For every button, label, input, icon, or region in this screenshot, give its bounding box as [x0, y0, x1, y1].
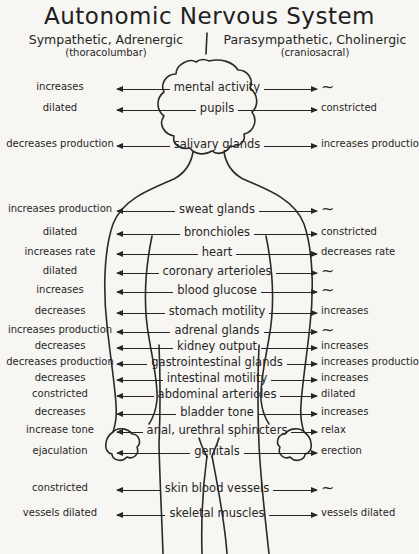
- parasympathetic-effect-label: vessels dilated: [318, 507, 415, 518]
- left-arrow: [116, 245, 199, 258]
- organ-label: anal, urethral sphincters: [144, 423, 291, 437]
- left-arrow: [116, 283, 174, 296]
- effect-row: dilatedbronchiolesconstricted: [4, 224, 415, 239]
- effect-row: increases productionadrenal glands~: [4, 322, 415, 337]
- left-arrow: [116, 323, 171, 336]
- left-arrow: [116, 444, 191, 457]
- parasympathetic-effect-label: increases production: [318, 356, 415, 367]
- right-arrow: [258, 202, 318, 215]
- left-arrow: [116, 80, 171, 93]
- organ-label: salivary glands: [171, 137, 264, 151]
- sympathetic-effect-label: increases production: [4, 324, 116, 335]
- organ-label: gastrointestinal glands: [148, 355, 285, 369]
- right-arrow: [290, 423, 318, 436]
- parasympathetic-effect-label: ~: [318, 483, 415, 493]
- sympathetic-effect-label: decreases: [4, 340, 116, 351]
- sympathetic-effect-label: vessels dilated: [4, 507, 116, 518]
- sympathetic-effect-label: increases rate: [4, 246, 116, 257]
- organ-label: blood glucose: [174, 283, 260, 297]
- left-arrow: [116, 371, 164, 384]
- parasympathetic-effect-label: increases: [318, 406, 415, 417]
- right-arrow: [243, 444, 318, 457]
- parasympathetic-effect-label: increases production: [318, 138, 415, 149]
- parasympathetic-effect-label: ~: [318, 82, 415, 92]
- right-arrow: [268, 506, 318, 519]
- effect-row: increases productionsweat glands~: [4, 201, 415, 216]
- right-arrow: [286, 355, 318, 368]
- ans-diagram: Autonomic Nervous System Sympathetic, Ad…: [0, 0, 419, 554]
- sympathetic-effect-label: ejaculation: [4, 445, 116, 456]
- parasympathetic-column-sublabel: (craniosacral): [213, 47, 417, 59]
- organ-label: genitals: [191, 444, 243, 458]
- left-arrow: [116, 405, 177, 418]
- sympathetic-effect-label: increase tone: [4, 424, 116, 435]
- parasympathetic-effect-label: constricted: [318, 102, 415, 113]
- left-arrow: [116, 304, 166, 317]
- sympathetic-effect-label: increases: [4, 284, 116, 295]
- right-arrow: [263, 137, 318, 150]
- sympathetic-effect-label: constricted: [4, 388, 116, 399]
- parasympathetic-effect-label: ~: [318, 325, 415, 335]
- sympathetic-effect-label: dilated: [4, 265, 116, 276]
- organ-label: stomach motility: [166, 304, 269, 318]
- effect-row: decreases productiongastrointestinal gla…: [4, 354, 415, 369]
- sympathetic-effect-label: decreases production: [4, 356, 116, 367]
- effect-row: increasesblood glucose~: [4, 282, 415, 297]
- left-arrow: [116, 264, 160, 277]
- left-arrow: [116, 101, 197, 114]
- effect-row: decreasesbladder toneincreases: [4, 404, 415, 419]
- sympathetic-effect-label: decreases: [4, 406, 116, 417]
- sympathetic-effect-label: increases: [4, 81, 116, 92]
- right-arrow: [275, 264, 319, 277]
- left-arrow: [116, 202, 176, 215]
- parasympathetic-effect-label: relax: [318, 424, 415, 435]
- left-arrow: [116, 355, 148, 368]
- parasympathetic-column-header: Parasympathetic, Cholinergic (craniosacr…: [213, 33, 417, 59]
- sympathetic-effect-label: decreases: [4, 305, 116, 316]
- parasympathetic-effect-label: constricted: [318, 226, 415, 237]
- page-title: Autonomic Nervous System: [0, 3, 419, 29]
- sympathetic-effect-label: increases production: [4, 203, 116, 214]
- organ-label: kidney output: [174, 339, 260, 353]
- organ-label: intestinal motility: [164, 371, 271, 385]
- right-arrow: [270, 371, 318, 384]
- sympathetic-column-header: Sympathetic, Adrenergic (thoracolumbar): [8, 33, 204, 59]
- effect-row: constrictedskin blood vessels~: [4, 480, 415, 495]
- organ-label: mental activity: [171, 80, 263, 94]
- organ-label: bladder tone: [177, 405, 257, 419]
- right-arrow: [253, 225, 318, 238]
- sympathetic-effect-label: constricted: [4, 482, 116, 493]
- organ-label: pupils: [197, 101, 237, 115]
- effect-row: ejaculationgenitalserection: [4, 443, 415, 458]
- right-arrow: [235, 245, 318, 258]
- effect-row: increasesmental activity~: [4, 79, 415, 94]
- organ-label: adrenal glands: [171, 323, 262, 337]
- sympathetic-effect-label: decreases production: [4, 138, 116, 149]
- right-arrow: [260, 339, 318, 352]
- right-arrow: [268, 304, 318, 317]
- parasympathetic-effect-label: ~: [318, 285, 415, 295]
- sympathetic-column-label: Sympathetic, Adrenergic: [8, 33, 204, 47]
- sympathetic-effect-label: dilated: [4, 226, 116, 237]
- left-arrow: [116, 225, 181, 238]
- organ-label: abdominal arterioles: [155, 387, 280, 401]
- left-arrow: [116, 339, 174, 352]
- parasympathetic-effect-label: increases: [318, 305, 415, 316]
- organ-label: coronary arterioles: [160, 264, 275, 278]
- sympathetic-column-sublabel: (thoracolumbar): [8, 47, 204, 59]
- effect-row: increase toneanal, urethral sphinctersre…: [4, 422, 415, 437]
- right-arrow: [263, 323, 318, 336]
- parasympathetic-effect-label: increases: [318, 340, 415, 351]
- parasympathetic-effect-label: decreases rate: [318, 246, 415, 257]
- effect-row: decreaseskidney outputincreases: [4, 338, 415, 353]
- parasympathetic-effect-label: ~: [318, 204, 415, 214]
- left-arrow: [116, 481, 162, 494]
- left-arrow: [116, 423, 144, 436]
- right-arrow: [279, 387, 318, 400]
- effect-row: decreasesstomach motilityincreases: [4, 303, 415, 318]
- effect-row: constrictedabdominal arteriolesdilated: [4, 386, 415, 401]
- parasympathetic-effect-label: increases: [318, 372, 415, 383]
- organ-label: skeletal muscles: [166, 506, 267, 520]
- right-arrow: [260, 283, 318, 296]
- sympathetic-effect-label: dilated: [4, 102, 116, 113]
